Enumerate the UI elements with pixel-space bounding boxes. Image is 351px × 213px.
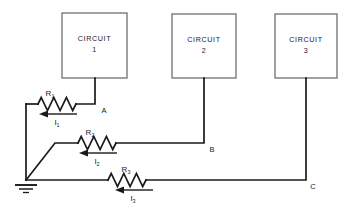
circuit-1-label-line2: 1 <box>92 45 97 54</box>
current-arrow-i1: I1 <box>39 111 77 129</box>
r3-label: R3 <box>122 165 131 175</box>
i2-label-subscript: 2 <box>97 161 100 167</box>
r3-label-subscript: 3 <box>127 169 130 175</box>
circuit-3-label-line1: CIRCUIT <box>289 35 322 44</box>
i1-arrowhead <box>39 111 48 118</box>
wire-r2-to-diagonal <box>26 143 78 180</box>
node-b-label: B <box>209 145 214 154</box>
circuit-3-label-line2: 3 <box>304 46 309 55</box>
r2-label: R2 <box>86 128 95 138</box>
r1-label: R1 <box>46 89 55 99</box>
ground-symbol <box>15 185 37 193</box>
circuit-block-2: CIRCUIT 2 <box>172 14 236 78</box>
schematic-svg: CIRCUIT 1 CIRCUIT 2 CIRCUIT 3 <box>0 0 351 213</box>
i2-label: I2 <box>94 157 99 167</box>
circuit-block-1: CIRCUIT 1 <box>62 13 127 78</box>
i2-arrowhead <box>79 150 88 157</box>
r1-resistor-symbol <box>38 98 76 111</box>
r2-label-subscript: 2 <box>91 132 94 138</box>
node-c-label: C <box>310 182 316 191</box>
r2-resistor-symbol <box>78 137 116 150</box>
wire-circuit3-to-node-c <box>146 78 306 180</box>
circuit-1-label-line1: CIRCUIT <box>78 34 111 43</box>
current-arrow-i2: I2 <box>79 150 117 168</box>
r3-resistor-symbol <box>108 174 146 187</box>
circuit-2-label-line1: CIRCUIT <box>187 35 220 44</box>
i1-label: I1 <box>54 118 59 128</box>
i3-label: I3 <box>130 194 135 204</box>
i3-arrowhead <box>115 187 124 194</box>
wire-circuit1-to-node-a <box>76 78 95 104</box>
current-arrow-i3: I3 <box>115 187 153 205</box>
r1-label-subscript: 1 <box>51 93 54 99</box>
circuit-2-label-line2: 2 <box>202 46 207 55</box>
circuit-diagram-figure: CIRCUIT 1 CIRCUIT 2 CIRCUIT 3 <box>0 0 351 213</box>
i3-label-subscript: 3 <box>133 198 136 204</box>
circuit-block-3: CIRCUIT 3 <box>275 14 337 78</box>
node-a-label: A <box>101 106 106 115</box>
wire-circuit2-to-node-b <box>116 78 204 143</box>
i1-label-subscript: 1 <box>57 122 60 128</box>
